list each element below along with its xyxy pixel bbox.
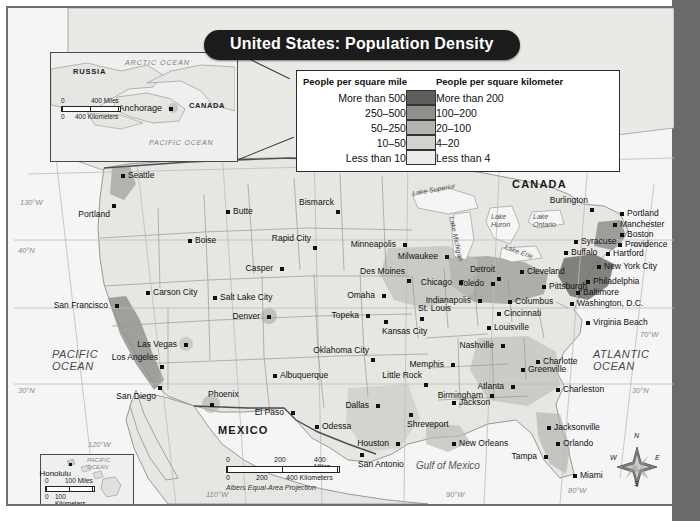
legend-swatch-cell — [406, 90, 436, 105]
scale-km-max: 400 Kilometers — [286, 474, 333, 481]
alaska-label-canada: CANADA — [189, 101, 225, 110]
city-dot — [573, 474, 577, 478]
city-label: Omaha — [347, 291, 375, 301]
scale-km-mid: 200 — [256, 474, 268, 481]
city-label: Jackson — [459, 398, 490, 408]
legend-miles-label: 250–500 — [303, 105, 406, 120]
city-label: Carson City — [153, 288, 197, 298]
city-dot — [574, 240, 578, 244]
city-dot — [491, 282, 495, 286]
city-label: Shreveport — [407, 420, 449, 430]
city-label: Casper — [246, 264, 273, 274]
city-dot — [520, 270, 524, 274]
legend-row: Less than 10Less than 4 — [303, 150, 613, 165]
city-label: Des Moines — [360, 267, 405, 277]
compass-west-label: W — [610, 454, 617, 461]
compass-east-label: E — [655, 454, 660, 461]
lake-label-ontario: Lake Ontario — [533, 213, 561, 229]
graticule-label: 40°N — [18, 246, 35, 255]
alaska-label-russia: RUSSIA — [73, 67, 106, 76]
city-dot — [424, 383, 428, 387]
city-dot — [544, 455, 548, 459]
city-dot — [112, 204, 116, 208]
city-label: Tampa — [511, 452, 537, 462]
city-label: San Antonio — [358, 460, 404, 470]
city-dot — [452, 442, 456, 446]
city-label: Bismarck — [299, 198, 334, 208]
city-dot — [313, 246, 317, 250]
city-label: Jacksonville — [554, 423, 600, 433]
city-label: Detroit — [470, 265, 495, 275]
city-label: Portland — [627, 209, 659, 219]
city-dot — [576, 291, 580, 295]
legend-miles-label: Less than 10 — [303, 150, 406, 165]
legend-row: 250–500100–200 — [303, 105, 613, 120]
city-label: Houston — [357, 439, 389, 449]
city-dot — [445, 255, 449, 259]
city-dot — [210, 403, 214, 407]
city-dot — [384, 320, 388, 324]
city-dot — [69, 463, 72, 466]
legend-miles-label: 50–250 — [303, 120, 406, 135]
city-dot — [556, 388, 560, 392]
city-dot — [606, 252, 610, 256]
compass-south-label: S — [634, 480, 639, 487]
city-label: Salt Lake City — [220, 293, 272, 303]
city-dot — [497, 277, 501, 281]
scale-miles-mid: 200 — [274, 456, 286, 463]
city-dot — [115, 304, 119, 308]
city-dot — [451, 363, 455, 367]
city-label: Albuquerque — [280, 371, 328, 381]
city-dot — [409, 413, 413, 417]
legend-miles-label: 10–50 — [303, 135, 406, 150]
city-dot — [403, 243, 407, 247]
scale-bar-graphic — [226, 466, 340, 473]
city-dot — [160, 365, 164, 369]
city-dot — [280, 267, 284, 271]
city-dot — [564, 251, 568, 255]
scale-zero: 0 — [61, 97, 65, 104]
scale-zero-km: 0 — [45, 493, 49, 500]
hawaii-scale-bar: 0100 Miles 0100 Kilometers — [45, 477, 95, 501]
legend-swatch-cell — [406, 105, 436, 120]
city-dot — [618, 243, 622, 247]
city-dot — [396, 442, 400, 446]
compass-north-label: N — [634, 432, 639, 439]
graticule-label: 90°W — [446, 490, 464, 499]
country-label-mexico: MEXICO — [218, 424, 269, 436]
city-dot — [590, 208, 594, 212]
legend-km-label: 4–20 — [436, 135, 613, 150]
city-label: Philadelphia — [593, 277, 639, 287]
alaska-scale-bar: 0400 Miles 0400 Kilometers — [61, 97, 121, 121]
city-label: Burlington — [550, 196, 588, 206]
city-dot — [169, 107, 173, 111]
legend-miles-label: More than 500 — [303, 90, 406, 105]
city-dot — [547, 426, 551, 430]
city-dot — [586, 280, 590, 284]
graticule-label: 120°W — [88, 440, 111, 449]
projection-label: Albers Equal-Area Projection — [226, 484, 340, 491]
city-dot — [336, 210, 340, 214]
alaska-inset: RUSSIA ARCTIC OCEAN CANADA PACIFIC OCEAN… — [50, 52, 238, 162]
city-dot — [620, 212, 624, 216]
city-label: Kansas City — [382, 327, 427, 337]
city-label: Little Rock — [382, 371, 422, 381]
city-label: Anchorage — [118, 104, 162, 114]
city-label: Cleveland — [527, 267, 565, 277]
city-label: Odessa — [322, 422, 351, 432]
city-dot — [542, 285, 546, 289]
legend-row: 50–25020–100 — [303, 120, 613, 135]
legend-swatch-cell — [406, 150, 436, 165]
city-label: Columbus — [515, 297, 553, 307]
city-label: Hartford — [613, 249, 644, 259]
legend-swatch-cell — [406, 120, 436, 135]
city-dot — [146, 291, 150, 295]
city-label: Butte — [233, 207, 253, 217]
city-label: Seattle — [128, 171, 154, 181]
legend-row: More than 500More than 200 — [303, 90, 613, 105]
legend-header-miles: People per square mile — [303, 76, 436, 90]
city-dot — [371, 358, 375, 362]
page-right-gutter — [672, 0, 700, 521]
city-dot — [226, 210, 230, 214]
city-label: Miami — [580, 471, 603, 481]
